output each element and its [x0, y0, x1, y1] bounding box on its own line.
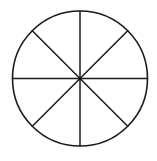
- sectored-circle-diagram: Circle divided into eight equal sectors …: [0, 0, 157, 161]
- circle-center-point: [78, 77, 81, 80]
- figure-canvas: Circle divided into eight equal sectors …: [0, 0, 157, 161]
